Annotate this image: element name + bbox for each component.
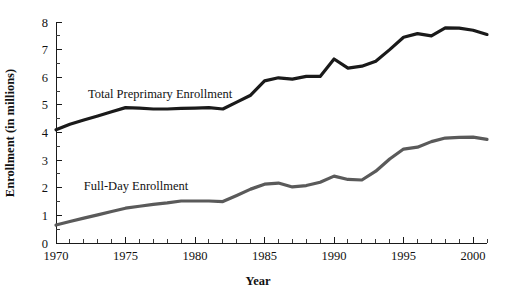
x-tick-label-1990: 1990: [322, 249, 347, 263]
y-tick-label-2: 2: [42, 181, 48, 195]
series-line-total-preprimary-enrollment: [56, 28, 487, 130]
x-tick-label-1975: 1975: [113, 249, 138, 263]
y-tick-label-7: 7: [42, 43, 48, 57]
x-tick-label-2000: 2000: [461, 249, 486, 263]
x-tick-label-1985: 1985: [252, 249, 277, 263]
data-series-group: [56, 28, 487, 225]
x-axis-title: Year: [246, 274, 271, 288]
x-tick-label-1970: 1970: [44, 249, 69, 263]
y-tick-label-4: 4: [42, 126, 49, 140]
y-tick-label-1: 1: [42, 209, 48, 223]
series-label-total-preprimary-enrollment: Total Preprimary Enrollment: [88, 87, 233, 101]
y-tick-label-6: 6: [42, 71, 48, 85]
y-tick-label-8: 8: [42, 16, 48, 30]
chart-canvas: 012345678 1970197519801985199019952000 T…: [0, 0, 508, 297]
y-axis-title: Enrollment (in millions): [3, 69, 17, 197]
x-tick-label-1995: 1995: [391, 249, 416, 263]
y-tick-label-3: 3: [42, 154, 48, 168]
y-tick-label-5: 5: [42, 98, 48, 112]
x-tick-label-1980: 1980: [183, 249, 208, 263]
x-axis-ticks: [56, 237, 487, 243]
y-axis-tick-labels: 012345678: [42, 16, 49, 251]
enrollment-line-chart: 012345678 1970197519801985199019952000 T…: [0, 0, 508, 297]
series-inline-labels: Total Preprimary EnrollmentFull-Day Enro…: [84, 87, 233, 193]
y-axis-ticks: [56, 22, 62, 243]
x-axis-tick-labels: 1970197519801985199019952000: [44, 249, 486, 263]
series-label-full-day-enrollment: Full-Day Enrollment: [84, 179, 189, 193]
